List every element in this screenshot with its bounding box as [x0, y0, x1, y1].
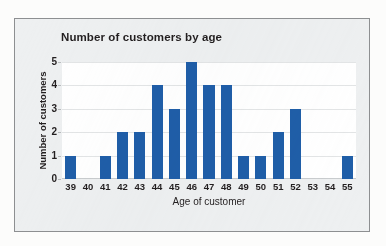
x-tick-55: 55 — [342, 181, 353, 193]
y-axis-tick-labels: 012345 — [43, 62, 57, 179]
x-tick-53: 53 — [307, 181, 318, 193]
bar-age-47 — [203, 85, 214, 179]
y-tickmark-2 — [58, 132, 61, 133]
x-tick-51: 51 — [273, 181, 284, 193]
x-tick-44: 44 — [152, 181, 163, 193]
bar-age-42 — [117, 132, 128, 179]
bar-age-44 — [152, 85, 163, 179]
y-tickmark-4 — [58, 85, 61, 86]
x-tick-45: 45 — [169, 181, 180, 193]
y-tickmark-3 — [58, 109, 61, 110]
y-tick-0: 0 — [43, 174, 57, 184]
x-tick-40: 40 — [83, 181, 94, 193]
y-tick-5: 5 — [43, 57, 57, 67]
bar-age-55 — [342, 156, 353, 179]
x-tick-54: 54 — [325, 181, 336, 193]
bars-layer — [62, 62, 356, 179]
bar-age-45 — [169, 109, 180, 179]
y-tick-3: 3 — [43, 104, 57, 114]
bar-age-50 — [255, 156, 266, 179]
y-tickmark-5 — [58, 62, 61, 63]
y-tick-1: 1 — [43, 151, 57, 161]
plot-area — [62, 62, 356, 179]
x-tick-49: 49 — [238, 181, 249, 193]
x-tick-43: 43 — [135, 181, 146, 193]
bar-age-48 — [221, 85, 232, 179]
y-tickmark-1 — [58, 156, 61, 157]
bar-age-41 — [100, 156, 111, 179]
x-tick-39: 39 — [65, 181, 76, 193]
chart-title: Number of customers by age — [61, 31, 222, 43]
bar-age-39 — [65, 156, 76, 179]
x-tick-47: 47 — [204, 181, 215, 193]
y-tickmark-0 — [58, 179, 61, 180]
chart-frame: Number of customers by age Number of cus… — [14, 18, 370, 232]
x-tick-52: 52 — [290, 181, 301, 193]
bar-age-52 — [290, 109, 301, 179]
y-tick-4: 4 — [43, 80, 57, 90]
x-axis-tick-labels: 3940414243444546474849505152535455 — [62, 181, 356, 195]
bar-age-49 — [238, 156, 249, 179]
x-tick-41: 41 — [100, 181, 111, 193]
x-tick-46: 46 — [186, 181, 197, 193]
x-tick-42: 42 — [117, 181, 128, 193]
y-tick-2: 2 — [43, 127, 57, 137]
x-tick-50: 50 — [256, 181, 267, 193]
scanned-page: Number of customers by age Number of cus… — [0, 0, 386, 246]
bar-age-43 — [134, 132, 145, 179]
x-axis-title: Age of customer — [62, 196, 356, 207]
bar-age-46 — [186, 62, 197, 179]
bar-age-51 — [273, 132, 284, 179]
x-tick-48: 48 — [221, 181, 232, 193]
